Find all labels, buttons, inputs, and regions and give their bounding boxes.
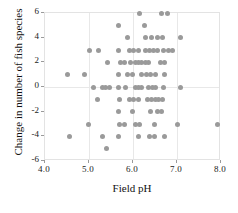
data-point	[122, 60, 127, 65]
data-point	[91, 85, 96, 90]
data-point	[116, 109, 121, 114]
x-axis-tick-label: 6.0	[117, 164, 147, 174]
gridline-vertical	[89, 13, 90, 159]
data-point	[215, 122, 220, 127]
data-point	[116, 48, 121, 53]
data-point	[152, 122, 157, 127]
y-axis-tick-label: -6	[17, 155, 39, 164]
data-point	[178, 35, 183, 40]
data-point	[146, 60, 151, 65]
data-point	[96, 48, 101, 53]
y-axis-tick-label: 4	[17, 32, 39, 41]
x-axis-title: Field pH	[44, 182, 220, 194]
y-axis-tick	[41, 12, 44, 13]
data-point	[116, 134, 121, 139]
data-point	[87, 48, 92, 53]
y-axis-tick	[41, 37, 44, 38]
data-point	[155, 48, 160, 53]
data-point	[116, 23, 121, 28]
data-point	[67, 134, 72, 139]
y-axis-tick-label: -2	[17, 106, 39, 115]
data-point	[153, 72, 158, 77]
data-point	[165, 11, 170, 16]
y-axis-tick-label: 2	[17, 56, 39, 65]
data-point	[116, 85, 121, 90]
x-axis-tick	[176, 160, 177, 163]
data-point	[149, 35, 154, 40]
y-axis-tick	[41, 61, 44, 62]
data-point	[86, 122, 91, 127]
x-axis-tick	[88, 160, 89, 163]
data-point	[178, 85, 183, 90]
data-point	[100, 134, 105, 139]
data-point	[155, 35, 160, 40]
data-point	[152, 134, 157, 139]
data-point	[82, 72, 87, 77]
data-point	[137, 122, 142, 127]
data-point	[148, 109, 153, 114]
plot-area	[44, 12, 220, 160]
data-point	[136, 48, 141, 53]
scatter-plot-figure: Change in number of fish species Field p…	[0, 0, 238, 213]
data-point	[143, 35, 148, 40]
data-point	[136, 97, 141, 102]
y-axis-tick	[41, 160, 44, 161]
data-point	[162, 72, 167, 77]
data-point	[130, 109, 135, 114]
x-axis-tick-label: 8.0	[205, 164, 235, 174]
data-point	[65, 72, 70, 77]
x-axis-tick	[44, 160, 45, 163]
data-point	[142, 23, 147, 28]
data-point	[125, 35, 130, 40]
data-point	[122, 122, 127, 127]
y-axis-tick-label: -4	[17, 130, 39, 139]
data-point	[105, 60, 110, 65]
data-point	[130, 72, 135, 77]
data-point	[162, 60, 167, 65]
data-point	[139, 85, 144, 90]
data-point	[123, 85, 128, 90]
x-axis-tick-label: 5.0	[73, 164, 103, 174]
y-axis-tick-label: 6	[17, 7, 39, 16]
x-axis-tick-label: 4.0	[29, 164, 59, 174]
data-point	[162, 134, 167, 139]
data-point	[159, 109, 164, 114]
y-axis-tick	[41, 111, 44, 112]
data-point	[116, 72, 121, 77]
data-point	[161, 85, 166, 90]
x-axis-tick	[132, 160, 133, 163]
data-point	[153, 85, 158, 90]
data-point	[95, 97, 100, 102]
data-point	[175, 122, 180, 127]
data-point	[136, 134, 141, 139]
y-axis-tick	[41, 86, 44, 87]
data-point	[160, 35, 165, 40]
y-axis-tick	[41, 135, 44, 136]
data-point	[137, 11, 142, 16]
data-point	[117, 97, 122, 102]
data-point	[170, 48, 175, 53]
y-axis-tick-label: 0	[17, 81, 39, 90]
data-point	[104, 146, 109, 151]
data-point	[159, 11, 164, 16]
data-point	[160, 97, 165, 102]
data-point	[107, 85, 112, 90]
x-axis-tick	[220, 160, 221, 163]
x-axis-tick-label: 7.0	[161, 164, 191, 174]
